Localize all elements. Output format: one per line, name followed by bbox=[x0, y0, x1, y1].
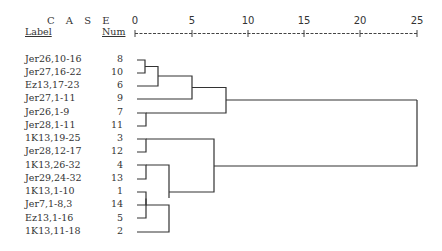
dendrogram bbox=[0, 0, 442, 251]
distance-axis bbox=[135, 30, 417, 37]
dendrogram-branches bbox=[137, 60, 417, 232]
